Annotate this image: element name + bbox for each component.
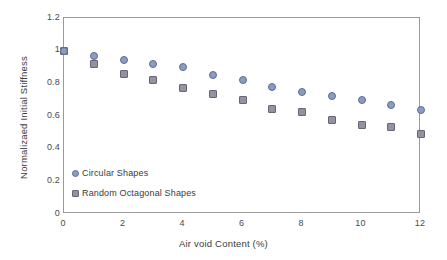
legend-item-circular: Circular Shapes — [72, 166, 196, 180]
y-tick-label: 0.2 — [34, 176, 60, 185]
data-point — [149, 76, 157, 84]
data-point — [417, 106, 425, 114]
data-point — [358, 121, 366, 129]
x-tick-label: 0 — [48, 219, 78, 228]
x-axis-title: Air void Content (%) — [0, 238, 447, 249]
x-tick-label: 2 — [108, 219, 138, 228]
data-point — [417, 130, 425, 138]
legend-label: Circular Shapes — [82, 169, 148, 178]
circle-marker-icon — [72, 170, 79, 177]
data-point — [179, 63, 187, 71]
data-point — [179, 84, 187, 92]
legend-label: Random Octagonal Shapes — [82, 189, 196, 198]
y-tick-label: 0.4 — [34, 143, 60, 152]
data-point — [239, 76, 247, 84]
square-marker-icon — [72, 190, 79, 197]
y-tick-label: 0.6 — [34, 111, 60, 120]
x-tick-label: 8 — [286, 219, 316, 228]
data-point — [298, 88, 306, 96]
y-axis-title: Normalizaed Initial Stiffness — [18, 20, 29, 216]
data-point — [239, 96, 247, 104]
x-axis-tick-labels: 024681012 — [0, 219, 447, 233]
y-tick-label: 1.2 — [34, 13, 60, 22]
y-axis-title-wrap: Normalizaed Initial Stiffness — [4, 0, 22, 260]
data-point — [298, 108, 306, 116]
chart-legend: Circular Shapes Random Octagonal Shapes — [72, 166, 196, 206]
x-tick-label: 6 — [227, 219, 257, 228]
data-point — [209, 90, 217, 98]
x-tick-label: 10 — [346, 219, 376, 228]
data-point — [328, 92, 336, 100]
y-tick-label: 0 — [34, 209, 60, 218]
data-point — [120, 56, 128, 64]
data-point — [149, 60, 157, 68]
data-point — [387, 101, 395, 109]
data-point — [387, 123, 395, 131]
data-point — [120, 70, 128, 78]
data-point — [60, 47, 68, 55]
data-point — [358, 96, 366, 104]
y-tick-label: 1 — [34, 45, 60, 54]
legend-item-random-octagonal: Random Octagonal Shapes — [72, 186, 196, 200]
data-point — [90, 60, 98, 68]
y-tick-label: 0.8 — [34, 78, 60, 87]
chart-figure: 00.20.40.60.811.2 024681012 Air void Con… — [0, 0, 447, 260]
data-point — [268, 105, 276, 113]
x-tick-label: 12 — [405, 219, 435, 228]
data-point — [209, 71, 217, 79]
data-point — [90, 52, 98, 60]
data-point — [268, 83, 276, 91]
data-point — [328, 116, 336, 124]
x-tick-label: 4 — [167, 219, 197, 228]
